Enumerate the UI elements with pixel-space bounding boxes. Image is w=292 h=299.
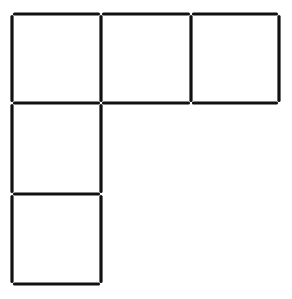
matchstick-diagram	[0, 0, 292, 299]
